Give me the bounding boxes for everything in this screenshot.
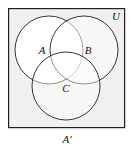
set-label-b: B: [85, 45, 92, 56]
universe-label: U: [112, 11, 120, 22]
venn-diagram-figure: A B C U A': [0, 0, 133, 147]
complement-caption-label: A': [62, 134, 71, 145]
set-label-a: A: [39, 45, 46, 56]
venn-diagram-graphic: [0, 0, 133, 147]
set-label-c: C: [62, 83, 69, 94]
